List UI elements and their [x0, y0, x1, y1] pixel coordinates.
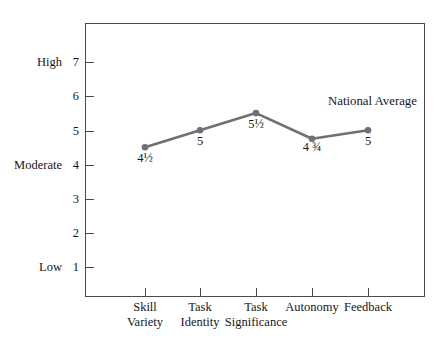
- data-point-marker: [365, 127, 372, 134]
- series-line-national-average: [0, 0, 447, 341]
- series-annotation-label: National Average: [328, 94, 417, 108]
- data-point-marker: [197, 127, 204, 134]
- chart-screenshot: 7 6 5 4 3 2 1 High Moderate Low Skill Va…: [0, 0, 447, 341]
- point-value-label: 5½: [221, 118, 291, 131]
- data-point-marker: [253, 110, 260, 117]
- point-value-label: 4½: [110, 152, 180, 165]
- point-value-label: 5: [333, 135, 403, 148]
- point-value-label: 5: [165, 135, 235, 148]
- data-point-marker: [142, 144, 149, 151]
